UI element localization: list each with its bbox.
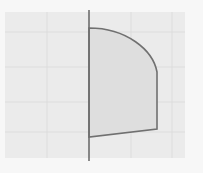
diagram-figure — [0, 0, 203, 173]
